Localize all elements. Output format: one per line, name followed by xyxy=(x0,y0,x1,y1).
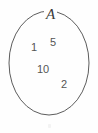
set-boundary-ellipse xyxy=(9,11,89,115)
set-diagram-figure: A 1 5 10 2 xyxy=(0,0,98,133)
scan-artifact-mark xyxy=(48,124,51,128)
set-label-a: A xyxy=(44,7,57,22)
set-element: 10 xyxy=(37,64,49,75)
set-element: 1 xyxy=(31,42,37,53)
set-element: 2 xyxy=(61,79,67,90)
set-element: 5 xyxy=(50,37,56,48)
